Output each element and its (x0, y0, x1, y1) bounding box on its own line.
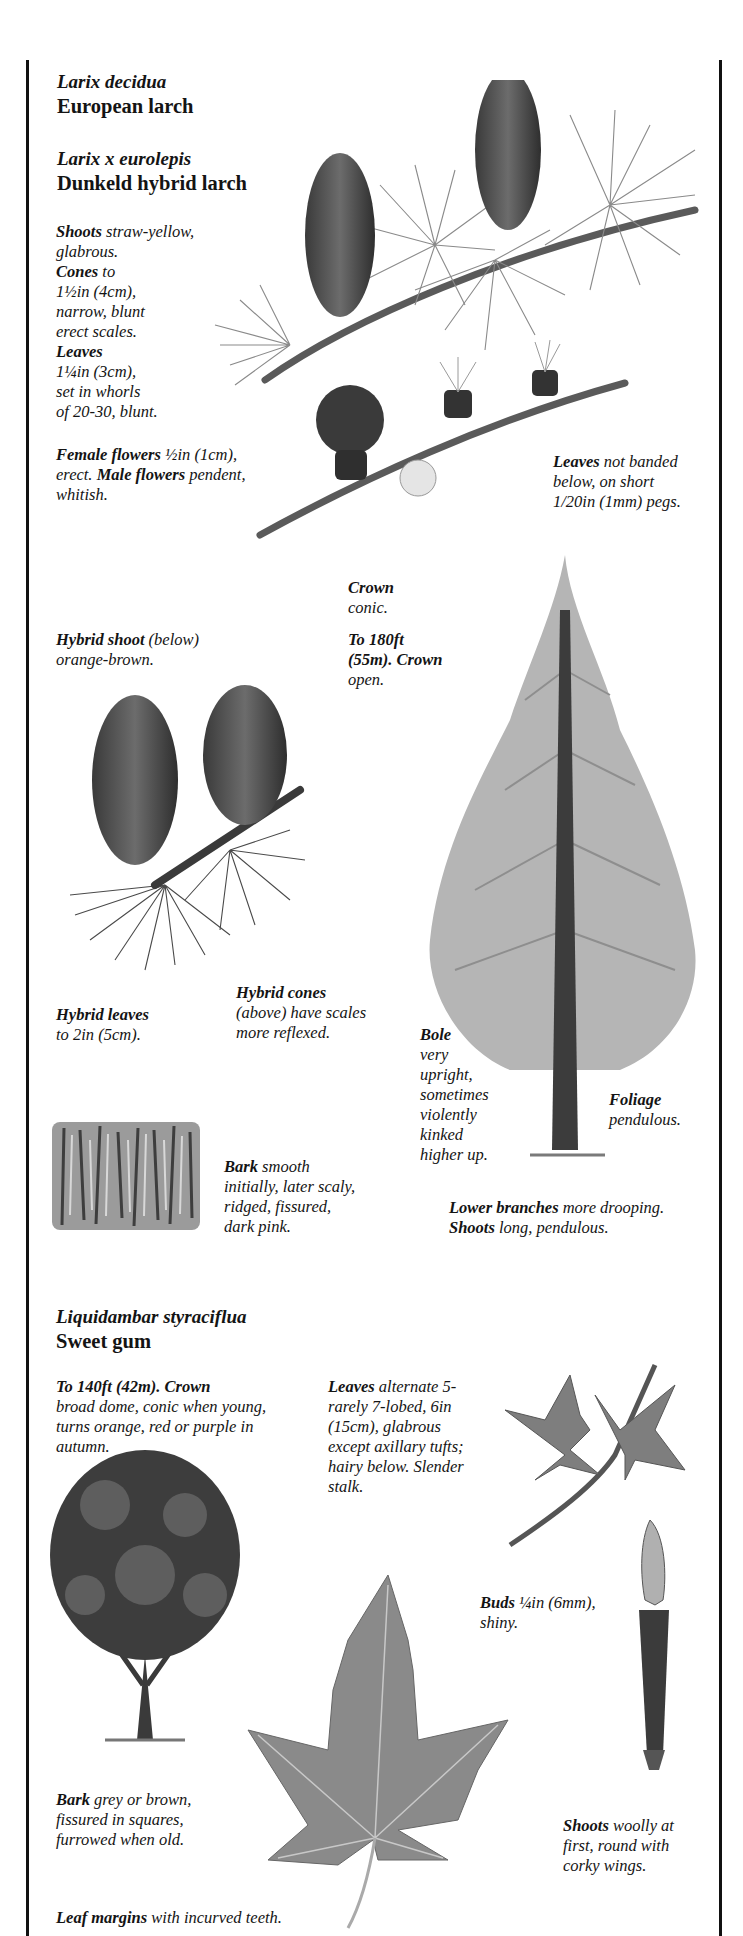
sweetgum-leaves-note: Leaves alternate 5- rarely 7-lobed, 6in … (328, 1377, 498, 1497)
larch-shoot-illustration (190, 80, 710, 550)
hybrid-shoot-note: Hybrid shoot (below) orange-brown. (56, 630, 316, 670)
sweet-gum-bud-illustration (625, 1515, 685, 1775)
left-border-rule (26, 60, 29, 1936)
species-heading-liquidambar: Liquidambar styraciflua Sweet gum (56, 1305, 247, 1354)
sweet-gum-tree-illustration (45, 1445, 245, 1750)
hybrid-larch-cones-illustration (55, 680, 315, 980)
hybrid-leaves-note: Hybrid leaves to 2in (5cm). (56, 1005, 226, 1045)
larch-bark-illustration (50, 1120, 202, 1232)
larch-branches-note: Lower branches more drooping. Shoots lon… (449, 1198, 719, 1238)
species-heading-larix-decidua: Larix decidua European larch (57, 70, 194, 119)
field-guide-page: Larix decidua European larch Larix x eur… (0, 0, 743, 1936)
larch-foliage-note: Foliage pendulous. (609, 1090, 719, 1130)
common-name: Sweet gum (56, 1329, 247, 1354)
sweetgum-leaf-margins-note: Leaf margins with incurved teeth. (56, 1908, 356, 1928)
sweetgum-bark-note: Bark grey or brown, fissured in squares,… (56, 1790, 256, 1850)
latin-name: Larix decidua (57, 70, 194, 94)
latin-name: Liquidambar styraciflua (56, 1305, 247, 1329)
hybrid-cones-note: Hybrid cones (above) have scales more re… (236, 983, 416, 1043)
larch-bark-note: Bark smooth initially, later scaly, ridg… (224, 1157, 404, 1237)
sweet-gum-leaf-illustration (238, 1570, 523, 1930)
larch-bole-note: Bole very upright, sometimes violently k… (420, 1025, 530, 1165)
sweetgum-shoots-note: Shoots woolly at first, round with corky… (563, 1816, 713, 1876)
common-name: European larch (57, 94, 194, 119)
right-border-rule (719, 60, 722, 1936)
